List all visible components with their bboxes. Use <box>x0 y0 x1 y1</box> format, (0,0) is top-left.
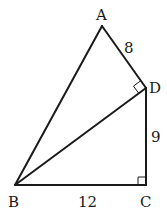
segment-bd <box>15 88 146 185</box>
geometry-diagram: A D C B 8 9 12 <box>0 0 167 215</box>
label-b: B <box>8 193 19 211</box>
length-bc: 12 <box>78 193 97 211</box>
segment-ab <box>15 26 102 185</box>
label-c: C <box>140 193 151 211</box>
length-ad: 8 <box>124 39 134 57</box>
label-d: D <box>149 79 161 97</box>
right-angle-mark-c <box>138 177 146 185</box>
segment-ad <box>102 26 146 88</box>
label-a: A <box>95 6 107 24</box>
length-dc: 9 <box>151 128 161 146</box>
